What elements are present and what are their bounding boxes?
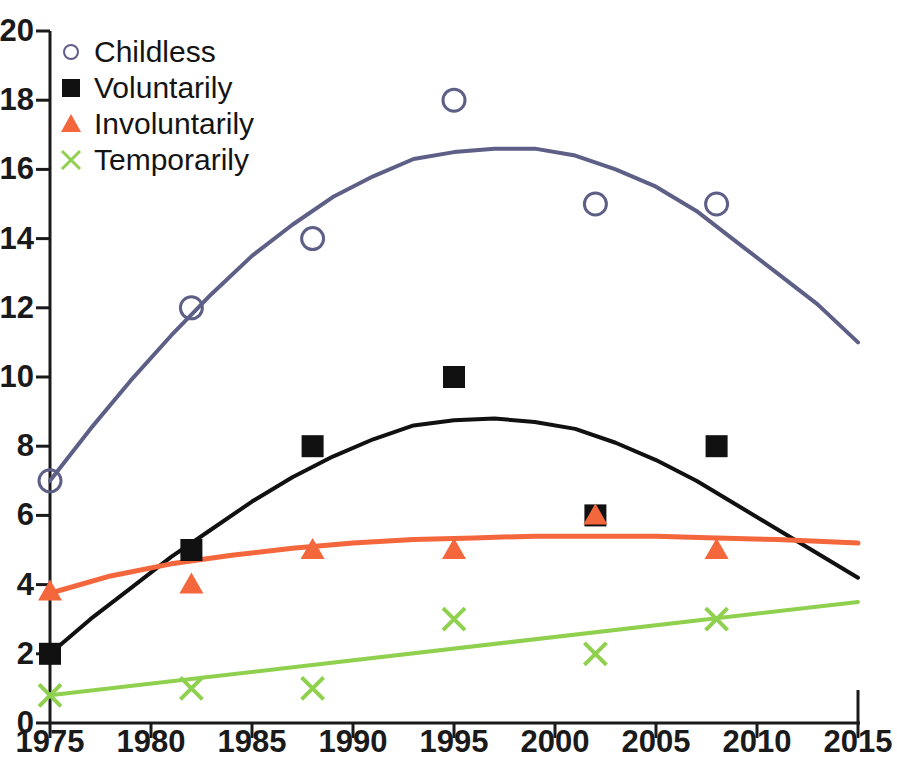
trend-line-childless bbox=[50, 149, 858, 481]
legend-item-involuntarily[interactable]: Involuntarily bbox=[58, 106, 254, 142]
data-point-voluntarily bbox=[39, 643, 61, 665]
chart-legend: ChildlessVoluntarilyInvoluntarilyTempora… bbox=[58, 34, 254, 178]
y-axis-tick-label: 14 bbox=[0, 223, 34, 254]
data-markers-group bbox=[38, 89, 729, 706]
cross-x-icon bbox=[58, 147, 84, 173]
filled-triangle-icon bbox=[58, 111, 84, 137]
y-axis-tick-label: 20 bbox=[0, 15, 34, 46]
x-axis-tick-label: 1980 bbox=[106, 726, 196, 757]
data-point-voluntarily bbox=[443, 366, 465, 388]
y-axis-tick-label: 6 bbox=[17, 499, 34, 530]
y-axis-tick-label: 2 bbox=[17, 638, 34, 669]
y-axis-ticks bbox=[36, 31, 50, 723]
data-point-involuntarily bbox=[179, 573, 203, 594]
data-point-childless bbox=[302, 228, 324, 250]
x-axis-tick-label: 1975 bbox=[5, 726, 95, 757]
y-axis-tick-label: 10 bbox=[0, 361, 34, 392]
data-point-childless bbox=[584, 193, 606, 215]
data-point-temporarily bbox=[443, 608, 465, 630]
data-point-involuntarily bbox=[705, 538, 729, 559]
filled-square-icon bbox=[58, 75, 84, 101]
data-point-childless bbox=[706, 193, 728, 215]
x-axis-tick-label: 1990 bbox=[308, 726, 398, 757]
x-axis-tick-label: 1985 bbox=[207, 726, 297, 757]
legend-item-label: Temporarily bbox=[94, 145, 249, 175]
y-axis-tick-label: 8 bbox=[17, 430, 34, 461]
data-point-childless bbox=[443, 89, 465, 111]
legend-item-voluntarily[interactable]: Voluntarily bbox=[58, 70, 254, 106]
y-axis-tick-label: 18 bbox=[0, 84, 34, 115]
trend-line-temporarily bbox=[50, 602, 858, 695]
legend-item-label: Involuntarily bbox=[94, 109, 254, 139]
data-point-temporarily bbox=[302, 677, 324, 699]
trend-lines-group bbox=[50, 149, 858, 696]
x-axis-tick-label: 2000 bbox=[510, 726, 600, 757]
x-axis-tick-label: 1995 bbox=[409, 726, 499, 757]
y-axis-tick-label: 16 bbox=[0, 153, 34, 184]
data-point-voluntarily bbox=[180, 539, 202, 561]
data-point-temporarily bbox=[584, 643, 606, 665]
open-circle-icon bbox=[58, 39, 84, 65]
legend-item-label: Voluntarily bbox=[94, 73, 232, 103]
legend-item-temporarily[interactable]: Temporarily bbox=[58, 142, 254, 178]
legend-item-childless[interactable]: Childless bbox=[58, 34, 254, 70]
x-axis-tick-label: 2015 bbox=[813, 726, 897, 757]
legend-item-label: Childless bbox=[94, 37, 216, 67]
y-axis-tick-label: 12 bbox=[0, 292, 34, 323]
data-point-voluntarily bbox=[706, 435, 728, 457]
x-axis-tick-label: 2010 bbox=[712, 726, 802, 757]
data-point-voluntarily bbox=[302, 435, 324, 457]
y-axis-tick-label: 4 bbox=[17, 569, 34, 600]
x-axis-tick-label: 2005 bbox=[611, 726, 701, 757]
